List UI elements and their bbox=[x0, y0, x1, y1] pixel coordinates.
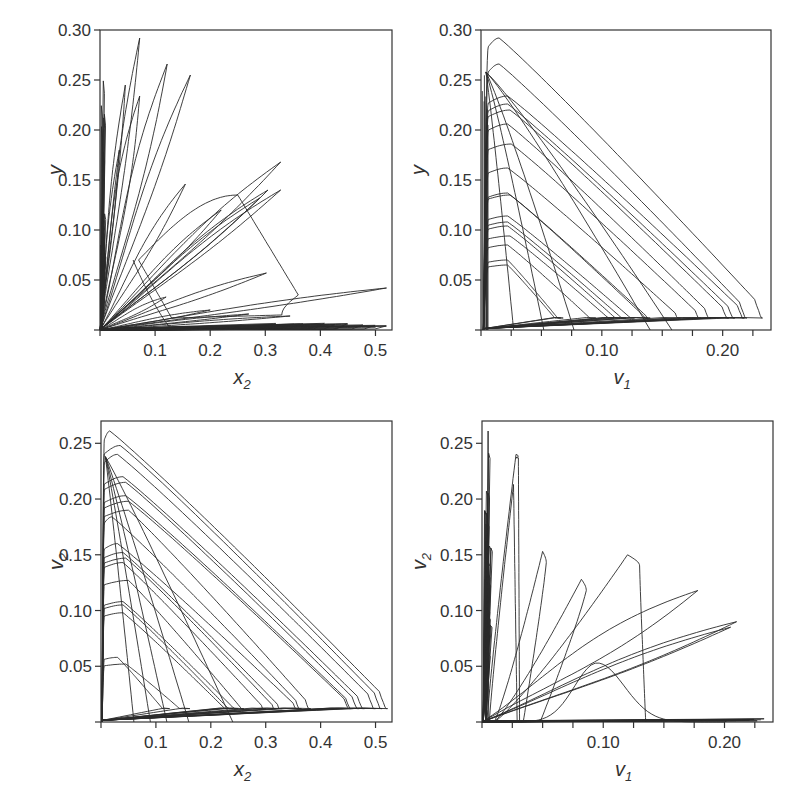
trajectory-line bbox=[486, 72, 672, 330]
trajectory-loop bbox=[483, 245, 595, 330]
y-tick-label: 0.10 bbox=[59, 602, 92, 621]
trajectory-loop bbox=[102, 454, 375, 722]
chart-top-right: 0.050.100.150.200.250.300.100.20v1y bbox=[407, 21, 771, 392]
y-axis-label: y bbox=[44, 164, 66, 177]
y-tick-label: 0.05 bbox=[439, 271, 472, 290]
trajectory-loop bbox=[483, 265, 560, 330]
x-tick-label: 0.10 bbox=[587, 733, 620, 752]
y-axis-label: v2 bbox=[408, 552, 434, 570]
x-tick-label: 0.2 bbox=[198, 341, 222, 360]
trajectory-line bbox=[105, 457, 166, 722]
x-tick-label: 0.1 bbox=[143, 341, 167, 360]
x-tick-label: 0.4 bbox=[309, 733, 333, 752]
chart-bottom-left: 0.050.100.150.200.250.10.20.30.40.5x2v2 bbox=[45, 421, 392, 784]
x-tick-label: 0.3 bbox=[253, 341, 277, 360]
trajectory-loop bbox=[489, 485, 517, 723]
y-tick-label: 0.15 bbox=[440, 546, 473, 565]
y-tick-label: 0.20 bbox=[440, 490, 473, 509]
trajectory-loop bbox=[102, 477, 364, 722]
trajectory-loop bbox=[483, 64, 746, 330]
trajectory-loop bbox=[102, 496, 352, 722]
trajectory-loop bbox=[102, 563, 266, 722]
x-tick-label: 0.3 bbox=[254, 733, 278, 752]
x-tick-label: 0.10 bbox=[585, 341, 618, 360]
trajectory-loop bbox=[483, 216, 634, 330]
x-axis-label: v1 bbox=[613, 366, 630, 392]
plot-frame bbox=[482, 421, 773, 722]
y-tick-label: 0.25 bbox=[440, 434, 473, 453]
trajectory-loop bbox=[482, 591, 698, 723]
trajectory-loop bbox=[102, 482, 359, 722]
y-tick-label: 0.10 bbox=[439, 221, 472, 240]
y-tick-label: 0.05 bbox=[59, 657, 92, 676]
y-tick-label: 0.25 bbox=[59, 434, 92, 453]
trajectory-line bbox=[486, 72, 514, 330]
x-tick-label: 0.20 bbox=[708, 733, 741, 752]
y-tick-label: 0.25 bbox=[58, 71, 91, 90]
trajectory-line bbox=[105, 457, 150, 722]
trajectory-loop bbox=[483, 38, 762, 330]
x-tick-label: 0.1 bbox=[144, 733, 168, 752]
trajectory-loop bbox=[102, 517, 301, 722]
trajectory-loop bbox=[100, 38, 140, 330]
chart-bottom-right: 0.050.100.150.200.250.100.20v1v2 bbox=[408, 421, 773, 784]
trajectory-loop bbox=[483, 104, 734, 330]
trajectory-loop bbox=[102, 553, 282, 723]
y-axis-label: y bbox=[407, 164, 429, 177]
x-tick-label: 0.2 bbox=[199, 733, 223, 752]
x-tick-label: 0.20 bbox=[706, 341, 739, 360]
y-tick-label: 0.25 bbox=[439, 71, 472, 90]
trajectory-loop bbox=[102, 558, 277, 722]
figure-canvas: 0.050.100.150.200.250.300.10.20.30.40.5x… bbox=[0, 0, 801, 806]
y-tick-label: 0.10 bbox=[58, 221, 91, 240]
x-tick-label: 0.4 bbox=[309, 341, 333, 360]
trajectory-line bbox=[105, 457, 232, 722]
y-tick-label: 0.20 bbox=[439, 121, 472, 140]
plot-frame bbox=[481, 30, 771, 330]
y-tick-label: 0.20 bbox=[58, 121, 91, 140]
trajectory-loop bbox=[482, 622, 737, 722]
x-tick-label: 0.5 bbox=[364, 341, 388, 360]
y-tick-label: 0.05 bbox=[440, 657, 473, 676]
x-axis-label: x2 bbox=[232, 366, 251, 392]
trajectory-loop bbox=[483, 260, 563, 330]
y-tick-label: 0.30 bbox=[439, 21, 472, 40]
chart-top-left: 0.050.100.150.200.250.300.10.20.30.40.5x… bbox=[44, 21, 392, 392]
trajectory-loop bbox=[102, 613, 230, 722]
y-tick-label: 0.15 bbox=[439, 171, 472, 190]
x-tick-label: 0.5 bbox=[364, 733, 388, 752]
trajectory-loop bbox=[518, 663, 761, 722]
x-axis-label: v1 bbox=[615, 758, 632, 784]
y-tick-label: 0.05 bbox=[58, 271, 91, 290]
trajectory-loop bbox=[483, 96, 744, 330]
y-tick-label: 0.20 bbox=[59, 490, 92, 509]
y-tick-label: 0.30 bbox=[58, 21, 91, 40]
y-tick-label: 0.10 bbox=[440, 602, 473, 621]
x-axis-label: x2 bbox=[233, 758, 252, 784]
trajectory-loop bbox=[483, 144, 701, 330]
